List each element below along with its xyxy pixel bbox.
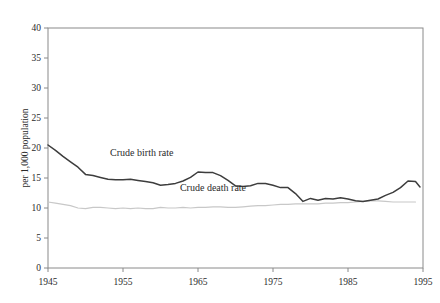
y-tick-label: 25 xyxy=(32,113,42,123)
x-tick-label: 1955 xyxy=(114,277,133,287)
series-line-crude-death-rate xyxy=(48,201,416,209)
x-tick-label: 1965 xyxy=(189,277,208,287)
annotation-crude-birth-rate: Crude birth rate xyxy=(110,147,174,158)
y-tick-label: 5 xyxy=(36,233,41,243)
plot-border xyxy=(48,28,423,268)
x-tick-label: 1975 xyxy=(264,277,283,287)
y-tick-label: 20 xyxy=(32,143,42,153)
series-line-crude-birth-rate xyxy=(48,145,420,201)
x-axis: 194519551965197519851995 xyxy=(39,268,433,287)
y-tick-label: 40 xyxy=(32,23,42,33)
data-series-group xyxy=(48,145,420,209)
y-tick-label: 10 xyxy=(32,203,42,213)
x-tick-label: 1995 xyxy=(414,277,433,287)
y-tick-label: 0 xyxy=(36,263,41,273)
series-annotations: Crude birth rateCrude death rate xyxy=(110,147,247,192)
y-axis-title: per 1,000 population xyxy=(20,108,30,187)
y-tick-label: 15 xyxy=(32,173,42,183)
line-chart: 0510152025303540 19451955196519751985199… xyxy=(0,0,440,303)
plot-frame xyxy=(48,28,423,268)
y-axis: 0510152025303540 xyxy=(32,23,49,273)
x-tick-label: 1985 xyxy=(339,277,358,287)
chart-figure: ......... 0510152025303540 1945195519651… xyxy=(0,0,440,303)
y-tick-label: 30 xyxy=(32,83,42,93)
annotation-crude-death-rate: Crude death rate xyxy=(180,182,247,193)
y-tick-label: 35 xyxy=(32,53,42,63)
x-tick-label: 1945 xyxy=(39,277,58,287)
